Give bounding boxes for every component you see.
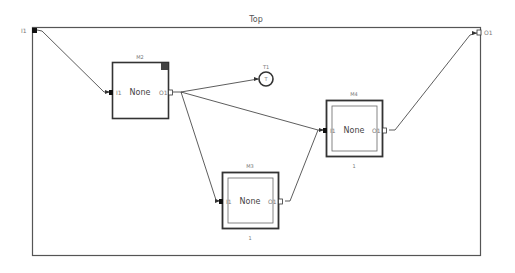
block-footer: 1 [248, 235, 251, 241]
output-port-icon[interactable] [169, 90, 173, 95]
frame-title: Top [248, 15, 263, 24]
wire-i1-m2[interactable] [37, 30, 110, 92]
block-m4[interactable]: M4 I1 None O1 1 [323, 91, 387, 169]
port-label: I1 [116, 89, 122, 96]
block-content: None [240, 197, 261, 206]
output-port-o1[interactable]: O1 [477, 29, 493, 36]
port-label: O1 [372, 127, 381, 134]
output-port-icon[interactable] [383, 128, 387, 133]
output-label: O1 [484, 29, 493, 36]
output-port-icon [477, 30, 481, 35]
port-label: I1 [330, 127, 336, 134]
input-port-icon[interactable] [219, 199, 223, 204]
block-label: M2 [136, 54, 144, 60]
output-port-icon[interactable] [279, 199, 283, 204]
input-port-i1[interactable]: I1 [21, 27, 37, 34]
wire-m4-o1[interactable] [389, 33, 477, 130]
input-port-icon[interactable] [109, 90, 113, 95]
port-label: O1 [159, 89, 168, 96]
wire-m3-m4[interactable] [285, 130, 318, 201]
arrow-icon [472, 31, 477, 35]
block-content: None [344, 126, 365, 135]
wire-m2-m3[interactable] [181, 92, 220, 201]
block-label: M4 [350, 91, 358, 97]
block-m3[interactable]: M3 I1 None O1 1 [219, 163, 283, 241]
input-port-icon[interactable] [323, 128, 327, 133]
port-label: I1 [226, 198, 232, 205]
block-label: M3 [246, 163, 254, 169]
corner-marker-icon [161, 63, 168, 70]
port-label: O1 [268, 198, 277, 205]
block-footer: 1 [352, 163, 355, 169]
wire-m2-t1[interactable] [173, 79, 258, 92]
wire-m2-m4[interactable] [181, 92, 324, 130]
input-label: I1 [21, 27, 27, 34]
block-m2[interactable]: M2 I1 None O1 [109, 54, 173, 119]
terminal-label: T1 [262, 64, 269, 70]
block-content: None [130, 88, 151, 97]
terminal-t1[interactable]: T1 T [259, 64, 273, 86]
input-port-icon [32, 28, 37, 33]
diagram-canvas: Top I1 O1 M2 I1 None O1 M3 [0, 0, 515, 273]
